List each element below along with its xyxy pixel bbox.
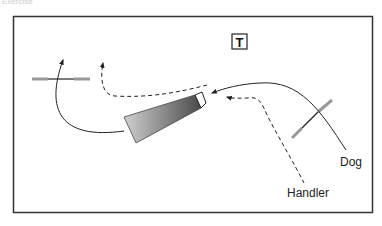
course-diagram: T Dog Handler xyxy=(0,0,382,226)
tunnel xyxy=(124,92,206,143)
dog-path xyxy=(212,83,346,150)
t-marker-icon: T xyxy=(232,34,247,50)
handler-path-upper xyxy=(102,63,207,96)
dog-label: Dog xyxy=(340,155,362,169)
svg-text:T: T xyxy=(236,35,244,50)
frame xyxy=(14,17,373,213)
handler-path xyxy=(227,97,304,183)
jump-right xyxy=(292,100,332,138)
handler-label: Handler xyxy=(287,186,329,200)
